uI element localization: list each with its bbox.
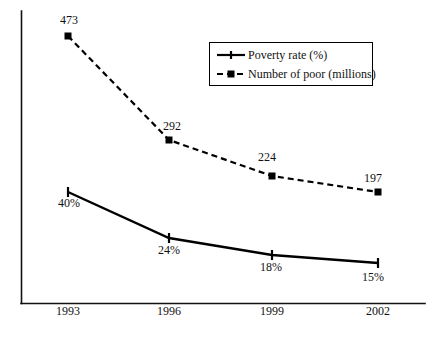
series-marker-poor-1999: [269, 173, 276, 180]
chart-legend: Poverty rate (%) Number of poor (million…: [209, 42, 373, 86]
data-label-poor-2002: 197: [364, 172, 382, 184]
data-label-rate-1993: 40%: [58, 197, 80, 209]
legend-label-poverty-rate: Poverty rate (%): [248, 49, 327, 62]
series-marker-poor-1996: [166, 137, 173, 144]
data-label-poor-1996: 292: [163, 120, 181, 132]
legend-swatch-dashed-line-icon: [216, 67, 246, 81]
data-label-poor-1993: 473: [60, 14, 78, 26]
series-marker-poor-1993: [65, 33, 72, 40]
data-label-rate-1996: 24%: [158, 244, 180, 256]
data-label-rate-1999: 18%: [260, 261, 282, 273]
x-axis-tick-1996: 1996: [157, 305, 181, 318]
data-label-poor-1999: 224: [258, 151, 276, 163]
x-axis-tick-1993: 1993: [56, 305, 80, 318]
series-line-poverty-rate: [68, 192, 378, 263]
legend-item-number-of-poor: Number of poor (millions): [216, 65, 376, 83]
x-axis-tick-1999: 1999: [260, 305, 284, 318]
chart-canvas: 473 292 224 197 40% 24% 18% 15% Poverty …: [0, 0, 436, 343]
legend-label-number-of-poor: Number of poor (millions): [248, 68, 376, 81]
legend-item-poverty-rate: Poverty rate (%): [216, 46, 327, 64]
data-label-rate-2002: 15%: [362, 271, 384, 283]
x-axis-tick-2002: 2002: [366, 305, 390, 318]
series-marker-poor-2002: [375, 189, 382, 196]
legend-swatch-solid-line-icon: [216, 48, 246, 62]
